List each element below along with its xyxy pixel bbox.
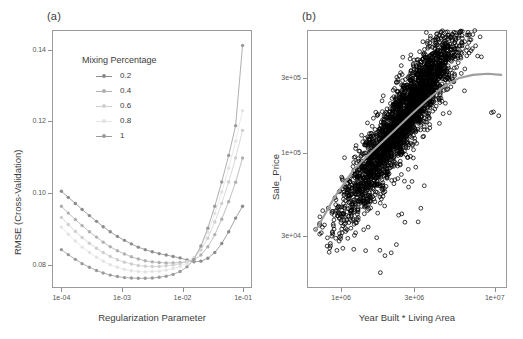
data-point bbox=[178, 256, 181, 259]
y-tick bbox=[48, 193, 52, 194]
x-tick bbox=[122, 288, 123, 292]
data-point bbox=[157, 261, 160, 264]
data-point bbox=[220, 218, 223, 221]
data-point bbox=[60, 216, 63, 219]
data-point bbox=[67, 211, 70, 214]
data-point bbox=[80, 236, 83, 239]
data-point bbox=[234, 139, 237, 142]
legend-label-0.8: 0.8 bbox=[120, 116, 131, 125]
data-point bbox=[116, 275, 119, 278]
data-point bbox=[220, 190, 223, 193]
data-point bbox=[151, 265, 154, 268]
x-tick bbox=[243, 288, 244, 292]
data-point bbox=[116, 258, 119, 261]
data-point bbox=[88, 251, 91, 254]
data-point bbox=[88, 242, 91, 245]
panel-a-x-axis-title: Regularization Parameter bbox=[52, 312, 252, 323]
data-point bbox=[67, 196, 70, 199]
data-point bbox=[164, 268, 167, 271]
data-point bbox=[199, 259, 202, 262]
data-point bbox=[157, 269, 160, 272]
y-tick bbox=[48, 121, 52, 122]
data-point bbox=[227, 154, 230, 157]
x-tick-label: 1e-03 bbox=[108, 294, 136, 301]
data-point bbox=[144, 264, 147, 267]
data-point bbox=[137, 264, 140, 267]
data-point bbox=[80, 262, 83, 265]
data-point bbox=[102, 240, 105, 243]
data-point bbox=[234, 124, 237, 127]
legend-key-point-1 bbox=[102, 134, 106, 138]
data-point bbox=[178, 265, 181, 268]
data-point bbox=[206, 226, 209, 229]
data-point bbox=[206, 257, 209, 260]
panel-b-y-axis-title: Sale_Price bbox=[270, 154, 281, 200]
data-point bbox=[130, 269, 133, 272]
x-tick bbox=[61, 288, 62, 292]
data-point bbox=[60, 248, 63, 251]
data-point bbox=[171, 263, 174, 266]
data-point bbox=[157, 276, 160, 279]
data-point bbox=[192, 258, 195, 261]
data-point bbox=[123, 239, 126, 242]
data-point bbox=[213, 233, 216, 236]
data-point bbox=[74, 258, 77, 261]
x-tick bbox=[495, 288, 496, 292]
data-point bbox=[137, 245, 140, 248]
data-point bbox=[95, 247, 98, 250]
data-point bbox=[80, 245, 83, 248]
x-tick bbox=[414, 288, 415, 292]
data-point bbox=[144, 248, 147, 251]
legend-title: Mixing Percentage bbox=[82, 55, 157, 65]
legend-label-1: 1 bbox=[120, 131, 124, 140]
y-tick-label: 1e+05 bbox=[274, 149, 301, 156]
data-point bbox=[206, 236, 209, 239]
data-point bbox=[60, 225, 63, 228]
figure-container: (a) RMSE (Cross-Validation) Regularizati… bbox=[0, 0, 523, 339]
legend-key-point-0.2 bbox=[102, 74, 106, 78]
data-point bbox=[130, 262, 133, 265]
data-point bbox=[185, 262, 188, 265]
data-point bbox=[171, 273, 174, 276]
data-point bbox=[80, 224, 83, 227]
data-point bbox=[109, 263, 112, 266]
data-point bbox=[213, 212, 216, 215]
data-point bbox=[67, 253, 70, 256]
data-point bbox=[241, 156, 244, 159]
data-point bbox=[206, 245, 209, 248]
legend-label-0.2: 0.2 bbox=[120, 71, 131, 80]
data-point bbox=[234, 156, 237, 159]
x-tick bbox=[341, 288, 342, 292]
data-point bbox=[123, 268, 126, 271]
data-point bbox=[241, 109, 244, 112]
data-point bbox=[116, 266, 119, 269]
y-tick-label: 0.14 bbox=[24, 46, 46, 53]
data-point bbox=[227, 167, 230, 170]
y-tick bbox=[48, 265, 52, 266]
data-point bbox=[116, 249, 119, 252]
data-point bbox=[227, 230, 230, 233]
data-point bbox=[102, 225, 105, 228]
x-tick-label: 1e+06 bbox=[327, 294, 355, 301]
data-point bbox=[109, 245, 112, 248]
legend-key-point-0.8 bbox=[102, 119, 106, 123]
data-point bbox=[95, 269, 98, 272]
y-tick bbox=[303, 78, 307, 79]
x-tick-label: 1e-01 bbox=[229, 294, 257, 301]
data-point bbox=[241, 205, 244, 208]
data-point bbox=[185, 265, 188, 268]
data-point bbox=[123, 252, 126, 255]
data-point bbox=[164, 274, 167, 277]
data-point bbox=[157, 265, 160, 268]
data-point bbox=[95, 235, 98, 238]
data-point bbox=[220, 242, 223, 245]
data-point bbox=[234, 181, 237, 184]
y-tick-label: 3e+04 bbox=[274, 232, 301, 239]
data-point bbox=[171, 255, 174, 258]
data-point bbox=[88, 230, 91, 233]
legend-label-0.6: 0.6 bbox=[120, 101, 131, 110]
legend-key-point-0.6 bbox=[102, 104, 106, 108]
x-tick-label: 1e+07 bbox=[481, 294, 509, 301]
y-tick-label: 3e+05 bbox=[274, 74, 301, 81]
series-line-0.8 bbox=[61, 111, 242, 272]
